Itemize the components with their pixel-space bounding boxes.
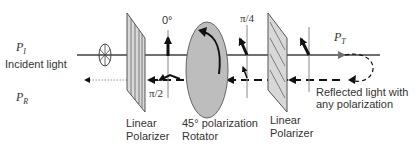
optical-isolator-diagram: PI Incident light PR 0° π/2 π/4 PT Linea… (0, 0, 416, 149)
label-reflected-light-b: any polarization (316, 98, 393, 110)
polarization-vector-output (301, 39, 309, 55)
label-angle-pi4: π/4 (240, 12, 255, 24)
label-polarizer-1b: Polarizer (126, 130, 170, 142)
return-arrow-head-p2 (288, 76, 296, 84)
label-polarizer-1: Linear (126, 117, 157, 129)
polarization-rotator (186, 22, 228, 118)
return-arrow-head-p1 (147, 76, 155, 84)
polarization-vector-pi4 (240, 39, 247, 55)
return-vector-pi4 (243, 67, 247, 78)
linear-polarizer-1 (127, 13, 145, 112)
label-incident-light: Incident light (5, 58, 67, 70)
label-p-transmitted: PT (333, 30, 346, 46)
label-p-incident: PI (15, 40, 26, 56)
label-polarizer-2b: Polarizer (270, 127, 314, 139)
linear-polarizer-2 (268, 13, 287, 112)
label-angle-pi2: π/2 (149, 87, 163, 99)
label-angle-0: 0° (162, 14, 173, 26)
return-loop-dashed (345, 54, 373, 81)
label-p-reflected: PR (15, 90, 28, 106)
label-rotator-b: Rotator (182, 130, 218, 142)
label-polarizer-2: Linear (270, 114, 301, 126)
return-arrow-head-right (348, 75, 356, 84)
label-reflected-light: Reflected light with (316, 86, 408, 98)
label-rotator: 45° polarization (182, 117, 258, 129)
